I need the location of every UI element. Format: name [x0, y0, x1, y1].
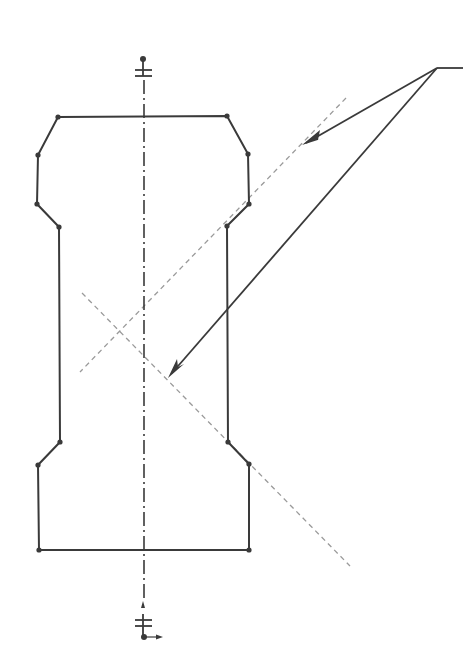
- part-profile[interactable]: [37, 116, 249, 550]
- section-line-2: [82, 293, 350, 566]
- vertex-point[interactable]: [35, 462, 40, 467]
- leader-arrow-2: [172, 68, 437, 373]
- vertex-point[interactable]: [34, 201, 39, 206]
- drawing-canvas: [0, 0, 463, 665]
- vertex-point[interactable]: [245, 151, 250, 156]
- vertex-point[interactable]: [246, 547, 251, 552]
- vertex-point[interactable]: [224, 223, 229, 228]
- leader-callout[interactable]: [168, 68, 463, 378]
- vertex-point[interactable]: [56, 224, 61, 229]
- end-marker-icon: [141, 601, 145, 608]
- leader-arrow-1: [306, 68, 437, 143]
- vertex-point[interactable]: [224, 113, 229, 118]
- vertex-point[interactable]: [225, 439, 230, 444]
- vertex-point[interactable]: [36, 547, 41, 552]
- vertex-point[interactable]: [57, 439, 62, 444]
- bottom-constraint-symbol[interactable]: [135, 601, 163, 640]
- vertex-point[interactable]: [55, 114, 60, 119]
- section-line-1: [80, 98, 346, 372]
- vertex-point[interactable]: [246, 201, 251, 206]
- arrow-right-icon: [156, 635, 163, 640]
- vertex-point[interactable]: [246, 461, 251, 466]
- vertex-point[interactable]: [35, 152, 40, 157]
- top-constraint-symbol[interactable]: [135, 56, 152, 76]
- profile-vertices: [34, 113, 251, 552]
